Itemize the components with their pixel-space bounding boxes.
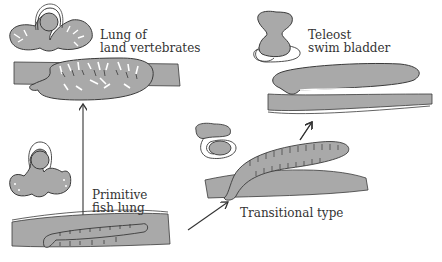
land-lung-side-view [14,58,180,100]
land-lung-label-line2: land vertebrates [100,42,200,55]
teleost-cross-section [254,11,300,62]
land-lung-cross-section [10,4,92,51]
diagram: Lung of land vertebrates Primitive fish … [0,0,442,262]
transitional-label-line1: Transitional type [240,207,343,220]
teleost-label-line2: swim bladder [308,42,390,55]
land-lung-label: Lung of land vertebrates [100,29,200,55]
arrow-to-transitional [188,202,228,230]
primitive-lung-label-line2: fish lung [92,202,147,215]
transitional-label: Transitional type [240,207,343,220]
transitional-cross-section [196,123,236,158]
primitive-lung-label: Primitive fish lung [92,189,147,215]
primitive-lung-side-view [12,210,170,247]
teleost-side-view [268,63,432,113]
primitive-lung-cross-section [10,142,71,197]
teleost-label: Teleost swim bladder [308,29,390,55]
